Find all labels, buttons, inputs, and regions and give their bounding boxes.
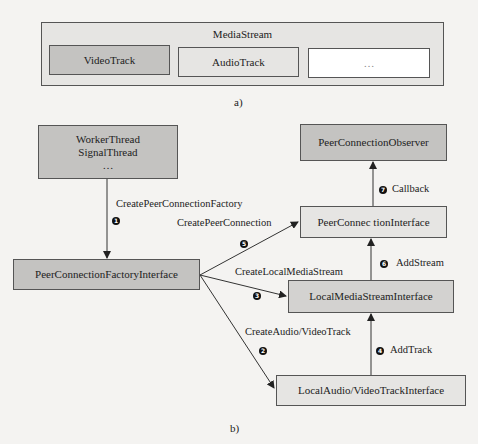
step-4-badge: 4 [376,347,384,355]
edge-4-label: AddTrack [390,344,432,355]
caption-b: b) [230,422,239,434]
edge-3-arrow [200,275,286,296]
step-2-badge: 2 [259,347,267,355]
factory-label: PeerConnectionFactoryInterface [35,268,178,281]
local-media-stream-label: LocalMediaStreamInterface [309,290,432,303]
edge-6-label: AddStream [396,257,444,268]
edge-3-label: CreateLocalMediaStream [235,266,343,277]
step-5-badge: 5 [240,240,248,248]
local-media-stream-box: LocalMediaStreamInterface [288,280,454,313]
threads-line3: … [103,159,114,172]
peer-connection-label: PeerConnec tionInterface [317,216,429,229]
observer-box: PeerConnectionObserver [300,124,447,161]
step-6-badge: 6 [380,260,388,268]
observer-label: PeerConnectionObserver [318,136,429,149]
peer-connection-box: PeerConnec tionInterface [300,206,447,238]
edge-7-label: Callback [392,183,429,194]
edge-5-label: CreatePeerConnection [177,217,271,228]
step-7-badge: 7 [379,186,387,194]
step-1-badge: 1 [112,217,120,225]
edge-2-label: CreateAudio/VideoTrack [245,326,351,337]
threads-line1: WorkerThread [76,133,140,146]
factory-box: PeerConnectionFactoryInterface [13,259,200,290]
step-3-badge: 3 [253,292,261,300]
local-track-label: LocalAudio/VideoTrackInterface [298,384,444,397]
local-track-box: LocalAudio/VideoTrackInterface [276,375,466,406]
edge-1-label: CreatePeerConnectionFactory [116,198,243,209]
threads-box: WorkerThread SignalThread … [38,125,178,179]
threads-line2: SignalThread [78,146,137,159]
